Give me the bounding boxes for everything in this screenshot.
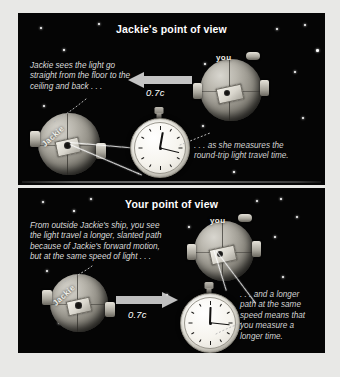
ship-fin-right [105,302,115,317]
star [63,49,65,51]
leader-dots-bottom-right [214,320,244,336]
stopwatch-hand-short [209,307,211,323]
star [46,270,48,272]
star [204,63,206,65]
stopwatch-tick [141,157,144,159]
stopwatch-hand-short [159,132,163,148]
panel-title-jackie: Jackie's point of view [18,23,325,35]
panel-your-point-of-view: Your point of view you Jackie [18,188,325,353]
caption-bottom-left: From outside Jackie's ship, you see the … [30,221,188,263]
stopwatch-tick [138,148,142,149]
panel-title-your: Your point of view [18,198,325,210]
stopwatch-hand-long [160,147,180,153]
speed-label-bottom: 0.7c [128,309,147,320]
ship-fin-right [260,80,269,96]
stopwatch-tick [210,341,211,345]
star [274,236,276,238]
caption-top-right: . . . as she measures the round-trip lig… [194,141,324,162]
star [316,49,319,52]
star [43,105,45,107]
ship-porthole [75,302,82,309]
relativity-figure: Jackie's point of view you Jackie [0,0,340,377]
star [202,125,204,127]
ship-fin-left [187,244,196,260]
stopwatch-tick [219,304,221,307]
ship-fin-top [246,52,260,60]
stopwatch-tick [149,129,151,132]
observer-ship-bottom [194,221,254,281]
stopwatch-tick [188,323,192,324]
star [294,71,296,73]
star [302,117,304,119]
star [282,276,284,278]
stopwatch-tick [191,312,194,314]
stopwatch-tick [199,339,201,342]
ship-label-you-bottom: you [210,216,225,225]
panel-jackies-point-of-view: Jackie's point of view you Jackie [18,13,325,185]
ship-fin-left [193,83,202,99]
stopwatch-center-pin [209,322,212,325]
ship-fin-left [42,290,52,305]
ship-porthole [224,90,230,96]
motion-arrow-right [116,292,178,308]
stopwatch-long-time [180,282,238,353]
stopwatch-tick [219,339,221,342]
ship-label-you-top: you [216,53,231,62]
stopwatch-tick [199,304,201,307]
stopwatch-tick [191,332,194,334]
ship-fin-left [30,131,40,147]
stopwatch-center-pin [159,147,162,150]
leader-dots-top-left [48,97,88,125]
stopwatch-tick [149,164,151,167]
caption-bottom-right: . . . and a longer path at the same spee… [240,290,324,342]
leader-dots-bottom-left [58,264,94,286]
star [188,226,190,228]
stopwatch-tick [176,157,179,159]
star [73,210,75,212]
star [296,216,298,218]
stopwatch-tick [226,312,229,314]
stopwatch-tick [169,129,171,132]
leader-dots-top-right [178,131,212,149]
stopwatch-tick [210,301,211,305]
stopwatch-tick [169,164,171,167]
star [233,171,235,173]
stopwatch-tick [160,126,161,130]
panel-divider [22,181,321,183]
observer-ship-top [200,59,262,121]
ship-fin-top [238,214,252,222]
stopwatch-tick [160,166,161,170]
ship-fin-right [252,241,261,257]
stopwatch-tick [141,137,144,139]
caption-top-left: Jackie sees the light go straight from t… [30,61,165,92]
